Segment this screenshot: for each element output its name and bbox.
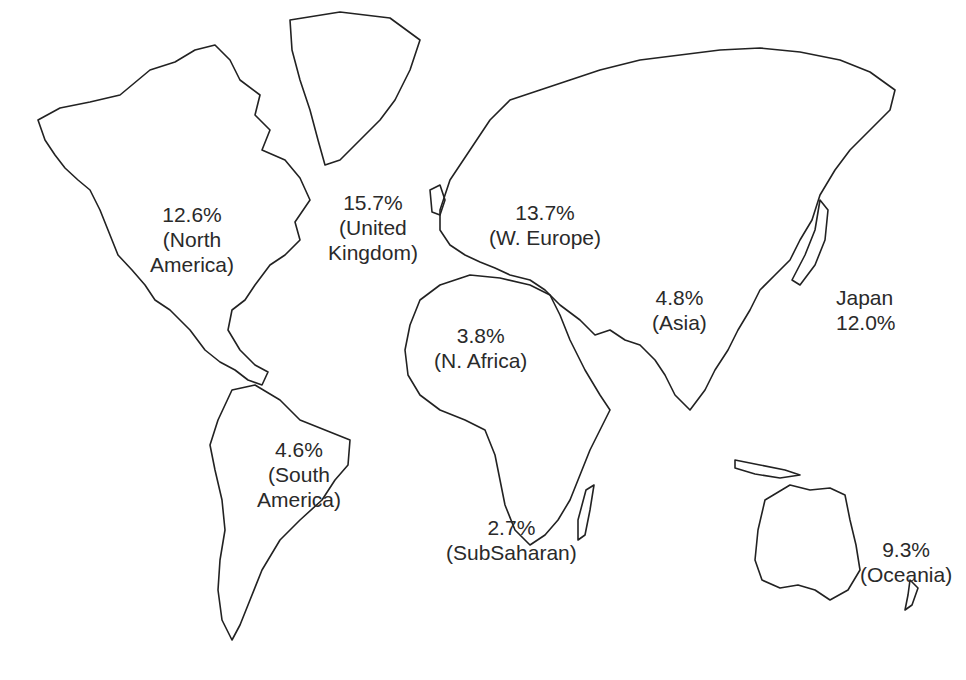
region-label-subsaharan: 2.7% (SubSaharan) bbox=[446, 515, 577, 565]
percent-value: 15.7% bbox=[328, 190, 418, 215]
percent-value: 13.7% bbox=[489, 200, 601, 225]
percent-value: 2.7% bbox=[446, 515, 577, 540]
south-america-outline bbox=[210, 385, 350, 640]
region-name: (Oceania) bbox=[860, 562, 952, 587]
region-label-united-kingdom: 15.7% (United Kingdom) bbox=[328, 190, 418, 265]
region-name: Japan bbox=[836, 285, 896, 310]
madagascar-outline bbox=[578, 485, 594, 540]
percent-value: 12.0% bbox=[836, 310, 896, 335]
greenland-outline bbox=[290, 12, 420, 165]
region-label-south-america: 4.6% (South America) bbox=[257, 437, 341, 512]
region-label-oceania: 9.3% (Oceania) bbox=[860, 537, 952, 587]
region-label-w-europe: 13.7% (W. Europe) bbox=[489, 200, 601, 250]
percent-value: 12.6% bbox=[150, 202, 234, 227]
region-label-n-africa: 3.8% (N. Africa) bbox=[434, 323, 527, 373]
percent-value: 3.8% bbox=[434, 323, 527, 348]
percent-value: 9.3% bbox=[860, 537, 952, 562]
region-name: (W. Europe) bbox=[489, 225, 601, 250]
world-map: 12.6% (North America) 15.7% (United King… bbox=[0, 0, 966, 680]
australia-outline bbox=[755, 485, 860, 600]
japan-outline bbox=[792, 200, 828, 285]
region-label-north-america: 12.6% (North America) bbox=[150, 202, 234, 277]
percent-value: 4.8% bbox=[652, 285, 707, 310]
africa-outline bbox=[405, 275, 610, 545]
percent-value: 4.6% bbox=[257, 437, 341, 462]
region-name: (United bbox=[328, 215, 418, 240]
region-name-line2: America) bbox=[257, 487, 341, 512]
region-label-asia: 4.8% (Asia) bbox=[652, 285, 707, 335]
region-name-line2: Kingdom) bbox=[328, 240, 418, 265]
region-name: (N. Africa) bbox=[434, 348, 527, 373]
region-name: (North bbox=[150, 227, 234, 252]
region-name-line2: America) bbox=[150, 252, 234, 277]
indonesia-outline bbox=[735, 460, 800, 478]
region-label-japan: Japan 12.0% bbox=[836, 285, 896, 335]
region-name: (Asia) bbox=[652, 310, 707, 335]
region-name: (SubSaharan) bbox=[446, 540, 577, 565]
region-name: (South bbox=[257, 462, 341, 487]
